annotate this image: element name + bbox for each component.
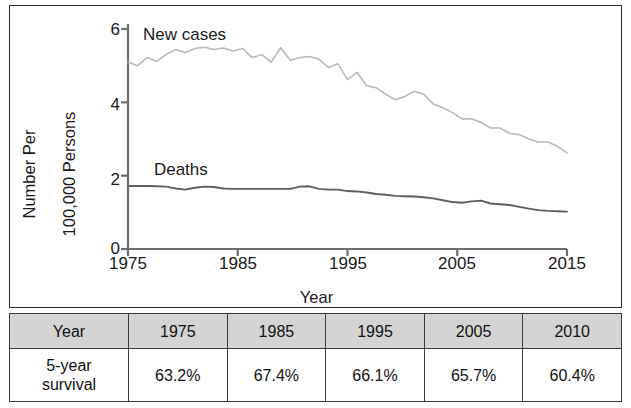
x-axis-title: Year — [10, 288, 623, 307]
series-line-deaths — [128, 186, 567, 212]
survival-data-table: Year 1975 1985 1995 2005 2010 5-year sur… — [9, 313, 622, 402]
table-cell-survival-1995: 66.1% — [326, 349, 425, 402]
row-label-line-2: survival — [10, 375, 128, 394]
y-axis-title-line-1: Number Per — [19, 59, 39, 289]
x-tick-label-1995: 1995 — [318, 254, 378, 274]
table-cell-survival-2010: 60.4% — [523, 349, 622, 402]
table-header-cell-year: Year — [10, 314, 129, 349]
table-cell-survival-1985: 67.4% — [227, 349, 326, 402]
series-label-deaths: Deaths — [154, 160, 208, 180]
table-row-label-5-year-survival: 5-year survival — [10, 349, 129, 402]
series-line-new-cases — [128, 47, 567, 153]
x-tick-label-1985: 1985 — [208, 254, 268, 274]
table-header-cell-1985: 1985 — [227, 314, 326, 349]
x-tick-label-2015: 2015 — [537, 254, 597, 274]
series-label-new-cases: New cases — [143, 25, 226, 45]
table-header-cell-2005: 2005 — [424, 314, 523, 349]
chart-panel: 6 4 2 0 1975 1985 1995 2005 2015 New cas… — [9, 5, 622, 308]
table-cell-survival-1975: 63.2% — [129, 349, 228, 402]
table-header-cell-1995: 1995 — [326, 314, 425, 349]
chart-figure: 6 4 2 0 1975 1985 1995 2005 2015 New cas… — [0, 0, 631, 408]
row-label-line-1: 5-year — [10, 356, 128, 375]
table-header-row: Year 1975 1985 1995 2005 2010 — [10, 314, 622, 349]
table-cell-survival-2005: 65.7% — [424, 349, 523, 402]
table-header-cell-1975: 1975 — [129, 314, 228, 349]
table-header-cell-2010: 2010 — [523, 314, 622, 349]
y-axis-title-line-2: 100,000 Persons — [59, 59, 79, 289]
y-tick-label-6: 6 — [94, 20, 120, 40]
x-tick-label-2005: 2005 — [427, 254, 487, 274]
x-tick-label-1975: 1975 — [98, 254, 158, 274]
table-row: 5-year survival 63.2% 67.4% 66.1% 65.7% … — [10, 349, 622, 402]
y-axis-title: Number Per 100,000 Persons — [0, 59, 99, 289]
